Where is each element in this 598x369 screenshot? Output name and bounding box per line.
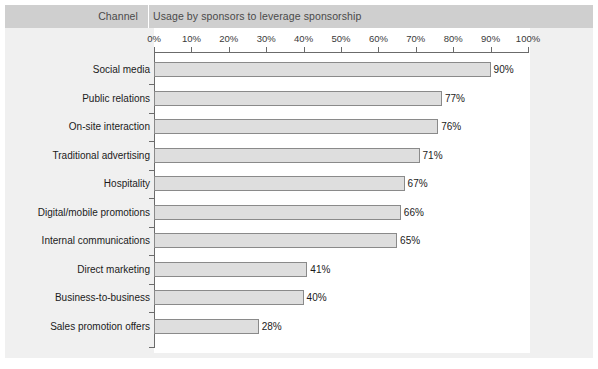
y-axis-foot-tick [149,347,155,348]
bar-value-label: 66% [401,205,424,221]
y-tick-mark [149,198,154,199]
x-tick-label: 80% [444,33,463,44]
x-tick-label: 20% [219,33,238,44]
bar-value-label: 90% [491,62,514,78]
y-tick-mark [149,170,154,171]
x-tick-label: 90% [481,33,500,44]
category-label: Social media [10,62,150,78]
bar-value-label: 65% [397,233,420,249]
x-tick-label: 70% [406,33,425,44]
bar-value-label: 77% [442,91,465,107]
category-label: Traditional advertising [10,148,150,164]
category-label: Business-to-business [10,290,150,306]
bar-value-label: 67% [405,176,428,192]
bar-value-label: 41% [307,262,330,278]
bar-value-label: 40% [304,290,327,306]
bar [154,176,405,191]
x-tick-label: 0% [147,33,161,44]
x-tick-mark [528,47,529,53]
bar-value-label: 76% [438,119,461,135]
bar [154,91,442,106]
bar [154,205,401,220]
y-tick-mark [149,284,154,285]
bar [154,290,304,305]
bar [154,319,259,334]
bar [154,148,420,163]
y-tick-mark [149,312,154,313]
bar-value-label: 28% [259,319,282,335]
category-label: Internal communications [10,233,150,249]
y-tick-mark [149,84,154,85]
y-tick-mark [149,227,154,228]
bar [154,62,491,77]
bar-value-label: 71% [420,148,443,164]
category-label: Hospitality [10,176,150,192]
chart-screenshot: Channel Usage by sponsors to leverage sp… [0,0,598,369]
y-tick-mark [149,113,154,114]
bar [154,262,307,277]
y-tick-mark [149,141,154,142]
x-tick-label: 30% [257,33,276,44]
x-tick-label: 40% [294,33,313,44]
x-axis-line [154,52,528,53]
x-tick-label: 50% [331,33,350,44]
bar [154,233,397,248]
category-label: Public relations [10,91,150,107]
category-label: On-site interaction [10,119,150,135]
category-label: Sales promotion offers [10,319,150,335]
y-tick-mark [149,255,154,256]
x-tick-label: 100% [516,33,540,44]
category-label: Digital/mobile promotions [10,205,150,221]
x-tick-label: 10% [182,33,201,44]
category-label: Direct marketing [10,262,150,278]
bar [154,119,438,134]
x-tick-label: 60% [369,33,388,44]
